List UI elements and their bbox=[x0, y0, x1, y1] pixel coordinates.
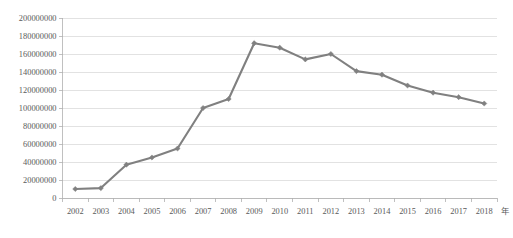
x-tick-label: 2011 bbox=[297, 207, 313, 216]
y-tick-label: 180000000 bbox=[19, 32, 57, 41]
y-tick-label: 60000000 bbox=[23, 140, 57, 149]
x-tick-label: 2012 bbox=[322, 207, 339, 216]
data-point-marker bbox=[149, 155, 154, 160]
data-point-marker bbox=[73, 186, 78, 191]
x-tick-label: 2017 bbox=[450, 207, 467, 216]
y-tick-label: 80000000 bbox=[23, 122, 57, 131]
data-markers bbox=[73, 41, 487, 192]
x-tick-label: 2010 bbox=[271, 207, 288, 216]
x-tick-label: 2015 bbox=[399, 207, 416, 216]
x-tick-label: 2004 bbox=[118, 207, 136, 216]
y-tick-label: 120000000 bbox=[19, 86, 57, 95]
x-tick-label: 2007 bbox=[195, 207, 212, 216]
x-tick-label: 2013 bbox=[348, 207, 365, 216]
x-axis bbox=[63, 198, 498, 202]
x-tick-label: 2014 bbox=[374, 207, 392, 216]
x-tick-label: 2002 bbox=[67, 207, 84, 216]
y-tick-labels: 0200000004000000060000000800000001000000… bbox=[19, 14, 57, 203]
x-tick-label: 2018 bbox=[476, 207, 493, 216]
y-tick-label: 20000000 bbox=[23, 176, 57, 185]
y-tick-label: 160000000 bbox=[19, 50, 57, 59]
y-tick-label: 0 bbox=[52, 194, 56, 203]
x-tick-label: 2016 bbox=[425, 207, 442, 216]
y-tick-label: 200000000 bbox=[19, 14, 57, 23]
y-axis bbox=[59, 18, 63, 198]
data-point-marker bbox=[482, 101, 487, 106]
x-tick-label: 2008 bbox=[220, 207, 237, 216]
x-tick-label: 2005 bbox=[144, 207, 161, 216]
x-tick-label: 2003 bbox=[92, 207, 109, 216]
x-tick-label: 2006 bbox=[169, 207, 186, 216]
x-tick-label: 2009 bbox=[246, 207, 263, 216]
x-axis-unit-label: 年 bbox=[501, 206, 509, 216]
chart-canvas: 0200000004000000060000000800000001000000… bbox=[0, 0, 513, 238]
data-point-marker bbox=[456, 95, 461, 100]
data-series bbox=[75, 43, 484, 189]
y-tick-label: 140000000 bbox=[19, 68, 57, 77]
data-point-marker bbox=[431, 90, 436, 95]
x-tick-labels: 2002200320042005200620072008200920102011… bbox=[67, 207, 493, 216]
line-chart: 0200000004000000060000000800000001000000… bbox=[0, 0, 513, 238]
y-tick-label: 40000000 bbox=[23, 158, 57, 167]
series-line bbox=[75, 43, 484, 189]
y-tick-label: 100000000 bbox=[19, 104, 57, 113]
